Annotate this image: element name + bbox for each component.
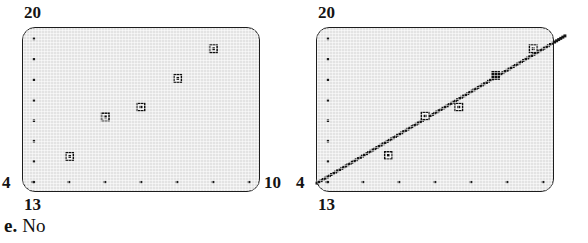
data-markers-right <box>384 44 538 160</box>
x-tick-dot <box>176 181 179 184</box>
x-tick-dot <box>32 181 35 184</box>
x-tick-dot <box>212 181 215 184</box>
x-tick-dot <box>140 181 143 184</box>
regression-line-pixel <box>563 34 566 37</box>
y-tick-dot <box>327 99 330 102</box>
data-point-marker <box>101 112 110 121</box>
data-point-marker <box>173 74 182 83</box>
plot-svg-left <box>23 28 259 191</box>
x-tick-dot <box>104 181 107 184</box>
x-tick-dot <box>398 181 401 184</box>
y-max-label-right: 20 <box>318 4 335 21</box>
y-tick-dot <box>327 160 330 163</box>
x-tick-dot <box>248 181 251 184</box>
y-tick-dot <box>33 99 36 102</box>
x-max-label-left: 10 <box>264 174 281 191</box>
plot-panel-right: 20 4 13 <box>294 0 588 243</box>
y-tick-dot <box>327 119 330 122</box>
y-tick-dot <box>33 38 36 41</box>
data-point-marker <box>421 111 430 120</box>
x-tick-dot <box>362 181 365 184</box>
figure-caption: e.No <box>4 216 45 235</box>
caption-text: No <box>17 215 45 236</box>
y-min-label-right: 4 <box>296 174 305 191</box>
y-max-label-left: 20 <box>24 4 41 21</box>
y-tick-dot <box>327 140 330 143</box>
y-min-label-left: 4 <box>2 174 11 191</box>
calculator-screen-left <box>22 27 260 192</box>
x-tick-dot <box>542 181 545 184</box>
y-axis-ticks-left <box>33 38 36 184</box>
y-tick-dot <box>33 79 36 82</box>
x-axis-ticks-right <box>326 181 545 184</box>
caption-letter: e. <box>4 215 17 236</box>
y-tick-dot <box>33 140 36 143</box>
data-point-marker <box>384 151 393 160</box>
data-point-marker <box>454 103 463 112</box>
x-tick-dot <box>68 181 71 184</box>
y-tick-dot <box>327 38 330 41</box>
x-min-label-right: 13 <box>318 196 335 213</box>
data-markers-left <box>65 44 218 161</box>
y-tick-dot <box>33 58 36 61</box>
y-tick-dot <box>327 58 330 61</box>
y-tick-dot <box>33 160 36 163</box>
figure-root: 20 4 13 10 e.No 20 4 13 <box>0 0 588 243</box>
x-tick-dot <box>506 181 509 184</box>
x-tick-dot <box>326 181 329 184</box>
plot-svg-right <box>317 28 553 191</box>
plot-panel-left: 20 4 13 10 e.No <box>0 0 294 243</box>
data-point-marker <box>65 152 74 161</box>
data-point-marker <box>137 103 146 112</box>
x-tick-dot <box>470 181 473 184</box>
y-tick-dot <box>33 119 36 122</box>
data-point-marker <box>491 71 500 80</box>
x-axis-ticks-left <box>32 181 251 184</box>
y-tick-dot <box>327 79 330 82</box>
data-point-marker <box>529 44 538 53</box>
x-min-label-left: 13 <box>24 196 41 213</box>
data-point-marker <box>209 44 218 53</box>
y-axis-ticks-right <box>327 38 330 184</box>
x-tick-dot <box>434 181 437 184</box>
calculator-screen-right <box>316 27 554 192</box>
regression-line-right <box>316 34 567 184</box>
